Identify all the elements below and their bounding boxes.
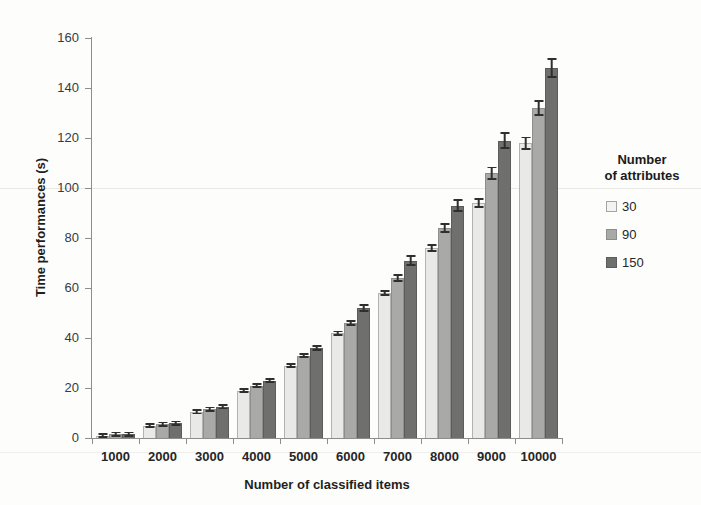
bar-series-150[interactable]	[357, 38, 370, 438]
error-bar-cap-top	[145, 423, 154, 425]
error-bar-cap-top	[380, 290, 389, 292]
bar[interactable]	[96, 436, 109, 439]
bar[interactable]	[143, 426, 156, 439]
error-bar-cap-top	[239, 388, 248, 390]
bar[interactable]	[438, 228, 451, 438]
bar-series-30[interactable]	[190, 38, 203, 438]
bar-series-90[interactable]	[532, 38, 545, 438]
y-tick-label: 140	[39, 81, 79, 94]
error-bar-cap-top	[453, 199, 462, 201]
error-bar-cap-top	[474, 198, 483, 200]
bar-group	[468, 38, 515, 438]
bar[interactable]	[284, 366, 297, 439]
bar[interactable]	[357, 308, 370, 438]
bar-group	[280, 38, 327, 438]
error-bar-cap-top	[299, 353, 308, 355]
bar-group	[515, 38, 562, 438]
bar-series-30[interactable]	[237, 38, 250, 438]
bar[interactable]	[190, 412, 203, 438]
bar[interactable]	[203, 409, 216, 438]
y-tick-mark	[85, 338, 91, 339]
bar-series-150[interactable]	[216, 38, 229, 438]
bar-series-90[interactable]	[109, 38, 122, 438]
bar-group	[139, 38, 186, 438]
bar[interactable]	[498, 141, 511, 439]
x-tick-mark	[233, 438, 234, 444]
bar[interactable]	[263, 381, 276, 439]
bar-series-150[interactable]	[404, 38, 417, 438]
bar-series-90[interactable]	[250, 38, 263, 438]
bar[interactable]	[156, 424, 169, 438]
bar[interactable]	[485, 173, 498, 438]
x-tick-mark	[421, 438, 422, 444]
bar-series-90[interactable]	[297, 38, 310, 438]
bar[interactable]	[472, 203, 485, 438]
x-tick-mark	[280, 438, 281, 444]
bar-series-30[interactable]	[143, 38, 156, 438]
bar[interactable]	[404, 261, 417, 439]
bar-group	[374, 38, 421, 438]
y-tick-mark	[85, 288, 91, 289]
bar[interactable]	[109, 434, 122, 438]
bar[interactable]	[297, 356, 310, 439]
bar[interactable]	[122, 434, 135, 438]
bar[interactable]	[545, 68, 558, 438]
error-bar-cap-top	[487, 167, 496, 169]
bar[interactable]	[532, 108, 545, 438]
error-bar-cap-top	[171, 421, 180, 423]
bar-series-150[interactable]	[169, 38, 182, 438]
bar[interactable]	[519, 143, 532, 438]
x-tick-mark	[562, 438, 563, 444]
legend-title: Number of attributes	[588, 152, 696, 185]
x-tick-mark	[186, 438, 187, 444]
legend-title-line-2: of attributes	[588, 168, 696, 184]
legend-item-150[interactable]: 150	[606, 255, 696, 270]
bar-series-30[interactable]	[425, 38, 438, 438]
bar-series-150[interactable]	[263, 38, 276, 438]
bar-series-150[interactable]	[451, 38, 464, 438]
bar-series-150[interactable]	[310, 38, 323, 438]
bar-series-150[interactable]	[122, 38, 135, 438]
bar-series-90[interactable]	[344, 38, 357, 438]
bar-series-90[interactable]	[438, 38, 451, 438]
y-tick-label: 160	[39, 31, 79, 44]
bar-series-30[interactable]	[96, 38, 109, 438]
plot-area	[92, 38, 562, 438]
legend-item-90[interactable]: 90	[606, 227, 696, 242]
error-bar-cap-top	[333, 331, 342, 333]
bar[interactable]	[344, 323, 357, 438]
bar-series-30[interactable]	[284, 38, 297, 438]
bar[interactable]	[216, 407, 229, 438]
bar-series-30[interactable]	[378, 38, 391, 438]
bar[interactable]	[391, 278, 404, 438]
y-tick-mark	[85, 188, 91, 189]
bar[interactable]	[310, 348, 323, 438]
bar[interactable]	[378, 293, 391, 438]
bar[interactable]	[425, 248, 438, 438]
x-tick-mark	[92, 438, 93, 444]
bar-series-30[interactable]	[519, 38, 532, 438]
y-tick-label: 20	[39, 381, 79, 394]
bar-series-150[interactable]	[545, 38, 558, 438]
error-bar-cap-top	[286, 363, 295, 365]
bar[interactable]	[237, 391, 250, 439]
bar-series-90[interactable]	[391, 38, 404, 438]
error-bar-cap-top	[500, 132, 509, 134]
bar-series-90[interactable]	[485, 38, 498, 438]
error-bar-cap-top	[521, 137, 530, 139]
error-bar-cap-top	[98, 433, 107, 435]
bar-series-90[interactable]	[156, 38, 169, 438]
bar-series-90[interactable]	[203, 38, 216, 438]
bar-series-30[interactable]	[331, 38, 344, 438]
x-axis-title: Number of classified items	[92, 477, 562, 492]
bar[interactable]	[169, 423, 182, 438]
bar-series-150[interactable]	[498, 38, 511, 438]
bar[interactable]	[250, 386, 263, 439]
y-tick-label: 40	[39, 331, 79, 344]
legend-item-30[interactable]: 30	[606, 199, 696, 214]
bar-series-30[interactable]	[472, 38, 485, 438]
error-bar-cap-top	[393, 274, 402, 276]
bar[interactable]	[451, 206, 464, 439]
error-bar-cap-top	[406, 255, 415, 257]
bar[interactable]	[331, 333, 344, 438]
